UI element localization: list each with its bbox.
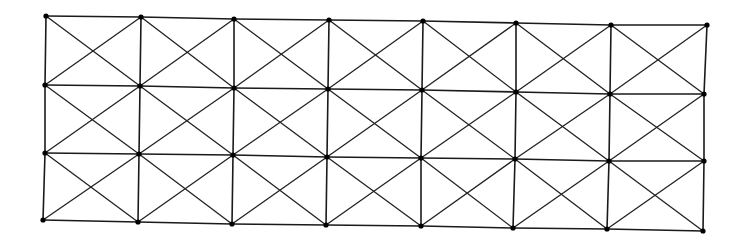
diagonal-member <box>607 161 704 229</box>
joint-node <box>513 89 518 94</box>
vertical-member <box>138 154 139 222</box>
horizontal-member <box>43 220 138 222</box>
horizontal-member <box>232 224 326 225</box>
joint-node <box>704 22 709 27</box>
vertical-member <box>704 25 707 94</box>
joint-node <box>326 17 331 22</box>
joint-node <box>512 156 517 161</box>
horizontal-member <box>234 19 329 20</box>
diagonal-member <box>327 90 422 157</box>
diagonal-member <box>232 157 327 224</box>
diagonal-member <box>422 23 516 90</box>
joint-node <box>420 18 425 23</box>
diagonal-member <box>45 153 138 222</box>
horizontal-member <box>421 226 513 228</box>
vertical-member <box>609 94 610 161</box>
joint-node <box>607 91 612 96</box>
vertical-member <box>43 153 45 220</box>
joint-node <box>513 20 518 25</box>
vertical-member <box>703 161 704 231</box>
horizontal-member <box>141 17 234 19</box>
horizontal-member <box>516 92 610 94</box>
joint-node <box>42 82 47 87</box>
vertical-member <box>140 17 141 86</box>
diagonal-member <box>45 17 141 85</box>
joint-node <box>325 86 330 91</box>
joint-node <box>323 222 328 227</box>
joint-node <box>701 158 706 163</box>
diagonal-member <box>138 155 233 222</box>
joint-node <box>606 158 611 163</box>
diagonal-member <box>233 89 328 155</box>
joint-node <box>700 228 705 233</box>
vertical-member <box>139 86 140 154</box>
horizontal-member <box>233 155 327 157</box>
joint-node <box>136 151 141 156</box>
joint-node <box>701 91 706 96</box>
horizontal-member <box>516 23 611 25</box>
horizontal-member <box>328 89 422 90</box>
horizontal-member <box>326 225 421 226</box>
vertical-member <box>421 90 422 158</box>
diagonal-member <box>515 94 610 159</box>
vertical-member <box>327 89 328 157</box>
joint-node <box>604 226 609 231</box>
horizontal-member <box>422 90 516 92</box>
diagonal-member <box>140 19 234 86</box>
horizontal-member <box>234 88 328 89</box>
horizontal-member <box>327 157 421 158</box>
joint-node <box>418 155 423 160</box>
diagonal-member <box>421 92 516 158</box>
horizontal-member <box>46 16 141 17</box>
joint-node <box>418 223 423 228</box>
joint-node <box>510 225 515 230</box>
diagonal-member <box>139 88 234 154</box>
vertical-member <box>45 16 46 85</box>
joint-node <box>608 22 613 27</box>
joint-node <box>324 154 329 159</box>
diagonal-member <box>43 154 139 220</box>
horizontal-member <box>45 153 139 154</box>
truss-grid-diagram <box>0 0 747 243</box>
diagonal-member <box>328 21 423 89</box>
horizontal-member <box>138 222 232 224</box>
joint-node <box>138 14 143 19</box>
vertical-member <box>233 88 234 155</box>
vertical-member <box>422 21 423 90</box>
vertical-member <box>515 92 516 159</box>
joint-node <box>229 221 234 226</box>
joint-node <box>42 150 47 155</box>
vertical-member <box>328 20 329 89</box>
diagonal-member <box>516 25 611 92</box>
joint-node <box>135 219 140 224</box>
vertical-member <box>607 161 609 229</box>
vertical-member <box>326 157 327 225</box>
horizontal-member <box>513 228 607 229</box>
joint-node <box>137 83 142 88</box>
vertical-member <box>232 155 233 224</box>
horizontal-member <box>140 86 234 88</box>
joint-node <box>419 87 424 92</box>
horizontal-member <box>423 21 516 23</box>
horizontal-member <box>45 85 140 86</box>
vertical-member <box>610 25 611 94</box>
diagonal-member <box>513 161 609 228</box>
joint-node <box>40 217 45 222</box>
horizontal-member <box>329 20 423 21</box>
vertical-member <box>513 159 515 228</box>
joint-node <box>230 152 235 157</box>
joint-node <box>231 85 236 90</box>
horizontal-member <box>139 154 233 155</box>
horizontal-member <box>515 159 609 161</box>
joint-node <box>231 16 236 21</box>
horizontal-member <box>421 158 515 159</box>
joint-node <box>43 13 48 18</box>
horizontal-member <box>607 229 703 231</box>
